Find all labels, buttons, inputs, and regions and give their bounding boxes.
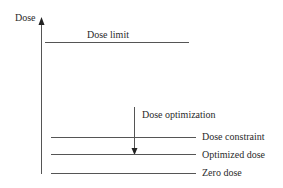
dose-constraint-label: Dose constraint bbox=[202, 131, 265, 142]
optimized-dose-line bbox=[51, 154, 196, 155]
dose-limit-label: Dose limit bbox=[87, 29, 129, 40]
dose-constraint-line bbox=[51, 137, 196, 138]
zero-dose-line bbox=[51, 173, 196, 174]
zero-dose-label: Zero dose bbox=[202, 167, 242, 178]
dose-optimization-label: Dose optimization bbox=[142, 109, 216, 120]
dose-axis bbox=[39, 17, 45, 174]
optimization-arrow bbox=[132, 107, 138, 155]
axis-label: Dose bbox=[15, 12, 36, 23]
dose-limit-line bbox=[45, 42, 189, 43]
optimized-dose-label: Optimized dose bbox=[202, 149, 265, 160]
axis-arrow-icon bbox=[39, 17, 45, 25]
